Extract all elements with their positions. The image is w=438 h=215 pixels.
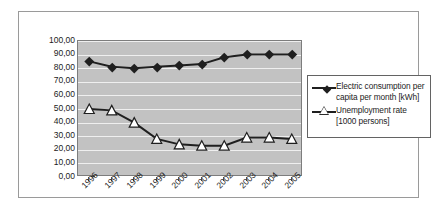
series-line	[89, 55, 292, 69]
y-axis-tick-label: 0,00	[37, 172, 75, 181]
diamond-marker-icon	[312, 82, 336, 93]
y-axis-tick-label: 80,00	[37, 63, 75, 72]
legend-entry: Unemployment rate [1000 persons]	[312, 105, 426, 126]
data-point-marker	[129, 118, 139, 128]
legend-label: Unemployment rate [1000 persons]	[336, 105, 426, 126]
y-axis-tick-label: 10,00	[37, 158, 75, 167]
triangle-marker-icon	[312, 106, 336, 117]
series-line	[89, 109, 292, 146]
legend-label: Electric consumption per capita per mont…	[336, 81, 426, 102]
y-axis-tick-label: 60,00	[37, 90, 75, 99]
y-axis-tick-label: 100,00	[37, 36, 75, 45]
plot-area	[77, 40, 302, 176]
chart-frame: 100,0090,0080,0070,0060,0050,0040,0030,0…	[18, 11, 419, 198]
y-axis: 100,0090,0080,0070,0060,0050,0040,0030,0…	[37, 33, 75, 183]
y-axis-tick-label: 50,00	[37, 104, 75, 113]
y-axis-tick-label: 30,00	[37, 131, 75, 140]
y-axis-tick-label: 40,00	[37, 117, 75, 126]
y-axis-tick-label: 20,00	[37, 144, 75, 153]
legend-entry: Electric consumption per capita per mont…	[312, 81, 426, 102]
y-axis-tick-label: 70,00	[37, 76, 75, 85]
x-axis: 1996199719981999200020012002200320042005	[77, 177, 303, 211]
chart-legend: Electric consumption per capita per mont…	[307, 75, 431, 138]
chart-screenshot: 100,0090,0080,0070,0060,0050,0040,0030,0…	[0, 0, 438, 215]
y-axis-tick-label: 90,00	[37, 49, 75, 58]
